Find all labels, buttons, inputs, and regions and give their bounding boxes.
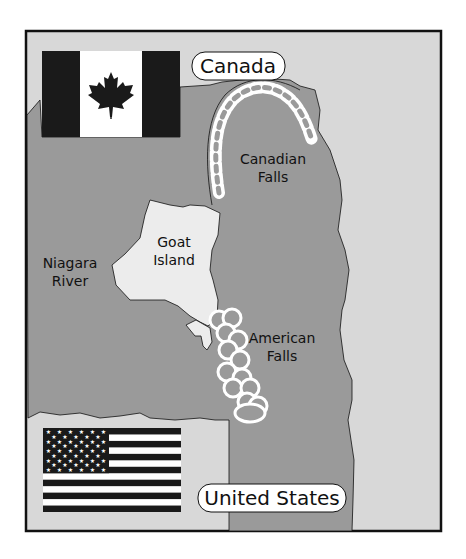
- star-icon: ★: [79, 466, 84, 473]
- niagara-river-label-1: Niagara: [43, 255, 98, 271]
- goat-island-label-1: Goat: [157, 234, 191, 250]
- united-states-label-text: United States: [204, 486, 339, 510]
- american-falls-label-1: American: [249, 330, 316, 346]
- star-icon: ★: [101, 438, 106, 445]
- star-icon: ★: [101, 447, 106, 454]
- star-icon: ★: [101, 466, 106, 473]
- star-icon: ★: [57, 466, 62, 473]
- star-icon: ★: [90, 466, 95, 473]
- canadian-falls-label-1: Canadian: [240, 151, 306, 167]
- niagara-river-label-2: River: [52, 273, 89, 289]
- star-icon: ★: [101, 428, 106, 435]
- american-falls-label-2: Falls: [267, 348, 297, 364]
- flag-stripe: [43, 493, 181, 499]
- flag-stripe: [43, 506, 181, 512]
- star-icon: ★: [46, 466, 51, 473]
- flag-stripe: [43, 480, 181, 486]
- goat-island-label-2: Island: [153, 252, 195, 268]
- niagara-falls-map: ★★★★★★★★★★★★★★★★★★★★★★★★★★★★★★★★★★★★★★★★…: [0, 0, 466, 559]
- canadian-falls-label-2: Falls: [258, 169, 288, 185]
- canada-label-text: Canada: [200, 54, 276, 78]
- star-icon: ★: [68, 466, 73, 473]
- united-states-label: United States: [198, 484, 346, 512]
- star-icon: ★: [101, 457, 106, 464]
- canada-flag: [42, 51, 180, 137]
- canada-label: Canada: [192, 52, 285, 80]
- usa-flag: ★★★★★★★★★★★★★★★★★★★★★★★★★★★★★★★★★★★★★★★★…: [43, 428, 181, 512]
